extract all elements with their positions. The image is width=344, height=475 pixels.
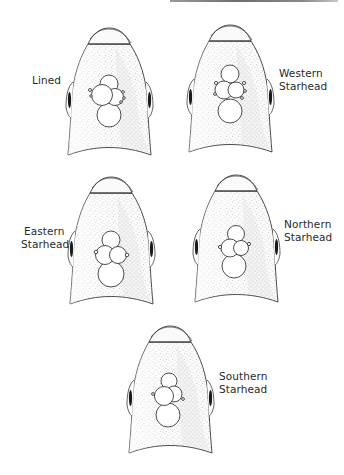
label-western-line2: Starhead (279, 80, 327, 93)
label-northern-starhead: Northern Starhead (284, 218, 332, 243)
head-lined (66, 28, 153, 155)
head-southern-starhead (127, 326, 214, 453)
label-eastern-line1: Eastern (21, 225, 69, 238)
label-eastern-line2: Starhead (21, 238, 69, 251)
head-northern-starhead (193, 175, 280, 302)
label-western-starhead: Western Starhead (279, 67, 327, 92)
head-western-starhead (187, 25, 274, 152)
label-lined-line1: Lined (32, 74, 61, 87)
label-southern-line2: Starhead (219, 383, 268, 396)
head-eastern-starhead (68, 177, 155, 304)
label-northern-line2: Starhead (284, 231, 332, 244)
label-western-line1: Western (279, 67, 327, 80)
label-southern-line1: Southern (219, 370, 268, 383)
label-southern-starhead: Southern Starhead (219, 370, 268, 395)
label-northern-line1: Northern (284, 218, 332, 231)
label-lined: Lined (32, 74, 61, 87)
label-eastern-starhead: Eastern Starhead (21, 225, 69, 250)
